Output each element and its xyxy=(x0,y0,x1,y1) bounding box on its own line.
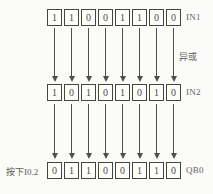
down-arrow-icon xyxy=(115,104,130,159)
qb0-label: QB0 xyxy=(186,165,204,175)
bit-value: 0 xyxy=(86,13,91,23)
qb0-bit-row: 0 1 1 0 0 1 1 0 xyxy=(47,162,181,179)
xor-operation-diagram: 1 1 0 0 1 1 0 0 IN1 异或 1 0 1 0 1 0 1 0 I… xyxy=(0,0,213,194)
bit-value: 1 xyxy=(69,13,74,23)
arrow-group-bottom xyxy=(47,104,181,159)
down-arrow-icon xyxy=(81,104,96,159)
down-arrow-icon xyxy=(132,28,147,82)
bit-value: 0 xyxy=(69,88,74,98)
arrow-group-top xyxy=(47,28,181,82)
bit-value: 1 xyxy=(120,13,125,23)
bit-box: 0 xyxy=(98,162,113,179)
bit-value: 1 xyxy=(69,166,74,176)
in1-bit-row: 1 1 0 0 1 1 0 0 xyxy=(47,9,181,26)
bit-value: 1 xyxy=(86,166,91,176)
down-arrow-icon xyxy=(47,28,62,82)
bit-value: 1 xyxy=(154,166,159,176)
bit-box: 0 xyxy=(47,162,62,179)
xor-operation-label: 异或 xyxy=(179,50,197,63)
bit-box: 0 xyxy=(166,84,181,101)
down-arrow-icon xyxy=(47,104,62,159)
down-arrow-icon xyxy=(115,28,130,82)
in1-label: IN1 xyxy=(186,12,201,22)
bit-box: 1 xyxy=(81,162,96,179)
down-arrow-icon xyxy=(98,28,113,82)
down-arrow-icon xyxy=(149,104,164,159)
bit-value: 0 xyxy=(154,13,159,23)
bit-value: 0 xyxy=(52,166,57,176)
in2-label: IN2 xyxy=(186,87,201,97)
down-arrow-icon xyxy=(64,104,79,159)
bit-value: 1 xyxy=(52,88,57,98)
bit-value: 0 xyxy=(171,166,176,176)
bit-value: 1 xyxy=(86,88,91,98)
bit-value: 0 xyxy=(171,13,176,23)
bit-box: 1 xyxy=(149,162,164,179)
down-arrow-icon xyxy=(81,28,96,82)
bit-box: 1 xyxy=(132,9,147,26)
down-arrow-icon xyxy=(149,28,164,82)
bit-box: 0 xyxy=(115,162,130,179)
bit-box: 1 xyxy=(115,84,130,101)
bit-value: 1 xyxy=(154,88,159,98)
bit-value: 1 xyxy=(137,13,142,23)
down-arrow-icon xyxy=(132,104,147,159)
bit-value: 0 xyxy=(137,88,142,98)
bit-box: 1 xyxy=(132,162,147,179)
bit-value: 1 xyxy=(120,88,125,98)
bit-box: 0 xyxy=(166,9,181,26)
bit-box: 0 xyxy=(64,84,79,101)
in2-bit-row: 1 0 1 0 1 0 1 0 xyxy=(47,84,181,101)
bit-value: 0 xyxy=(171,88,176,98)
press-input-label: 按下I0.2 xyxy=(6,165,38,178)
bit-box: 0 xyxy=(149,9,164,26)
bit-value: 1 xyxy=(52,13,57,23)
bit-box: 1 xyxy=(149,84,164,101)
bit-box: 1 xyxy=(81,84,96,101)
bit-box: 0 xyxy=(81,9,96,26)
bit-value: 0 xyxy=(103,166,108,176)
bit-box: 1 xyxy=(115,9,130,26)
bit-box: 0 xyxy=(98,9,113,26)
bit-box: 1 xyxy=(47,9,62,26)
down-arrow-icon xyxy=(64,28,79,82)
down-arrow-icon xyxy=(166,104,181,159)
bit-box: 1 xyxy=(64,162,79,179)
bit-box: 0 xyxy=(166,162,181,179)
bit-value: 0 xyxy=(120,166,125,176)
bit-value: 0 xyxy=(103,13,108,23)
bit-value: 0 xyxy=(103,88,108,98)
bit-box: 1 xyxy=(47,84,62,101)
bit-box: 0 xyxy=(132,84,147,101)
bit-box: 0 xyxy=(98,84,113,101)
down-arrow-icon xyxy=(98,104,113,159)
bit-value: 1 xyxy=(137,166,142,176)
bit-box: 1 xyxy=(64,9,79,26)
